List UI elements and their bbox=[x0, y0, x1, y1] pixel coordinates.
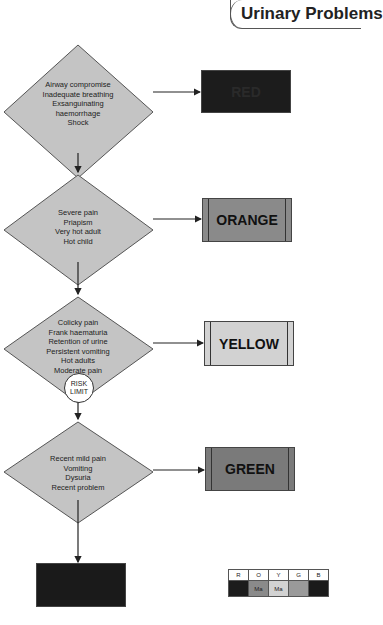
risk-limit-marker: RISKLIMIT bbox=[64, 373, 94, 403]
outcome-yellow-label: YELLOW bbox=[219, 336, 279, 352]
stripe-right bbox=[285, 199, 291, 241]
legend-header-y: Y bbox=[269, 570, 289, 581]
decision-text-2: Severe painPriapismVery hot adultHot chi… bbox=[30, 208, 126, 246]
legend-swatch-r bbox=[229, 581, 249, 597]
stripe-left bbox=[206, 448, 212, 490]
legend-header-o: O bbox=[249, 570, 269, 581]
legend-swatch-b bbox=[309, 581, 329, 597]
outcome-orange: ORANGE bbox=[202, 198, 292, 242]
outcome-blue: BLUE bbox=[36, 563, 126, 607]
legend-header-g: G bbox=[289, 570, 309, 581]
legend-header-b: B bbox=[309, 570, 329, 581]
legend-swatch-y: Ma bbox=[269, 581, 289, 597]
stripe-left bbox=[203, 199, 209, 241]
outcome-blue-label: BLUE bbox=[62, 577, 100, 593]
outcome-red: RED bbox=[201, 70, 291, 113]
decision-text-3: Colicky painFrank haematuriaRetention of… bbox=[28, 318, 128, 375]
legend-swatch-row: Ma Ma bbox=[229, 581, 329, 597]
triage-legend-table: R O Y G B Ma Ma bbox=[228, 569, 329, 597]
stripe-right bbox=[287, 322, 293, 365]
legend-header-row: R O Y G B bbox=[229, 570, 329, 581]
legend-header-r: R bbox=[229, 570, 249, 581]
outcome-green-label: GREEN bbox=[225, 461, 275, 477]
outcome-yellow: YELLOW bbox=[204, 321, 294, 366]
decision-text-1: Airway compromiseInadequate breathingExs… bbox=[30, 80, 126, 128]
decision-text-4: Recent mild painVomitingDysuriaRecent pr… bbox=[30, 454, 126, 492]
legend-swatch-o: Ma bbox=[249, 581, 269, 597]
outcome-red-label: RED bbox=[231, 84, 261, 100]
outcome-orange-label: ORANGE bbox=[216, 212, 277, 228]
outcome-green: GREEN bbox=[205, 447, 295, 491]
stripe-left bbox=[205, 322, 211, 365]
legend-swatch-g bbox=[289, 581, 309, 597]
stripe-right bbox=[288, 448, 294, 490]
